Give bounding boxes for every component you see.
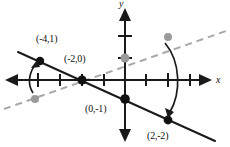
point-neg2-0: [77, 75, 86, 84]
label-neg4-1: (-4,1): [36, 33, 57, 44]
dashed-point-right: [164, 33, 172, 41]
dashed-point-y-intercept: [121, 54, 130, 63]
y-axis-label: y: [119, 0, 123, 9]
dashed-point-left: [31, 95, 39, 103]
point-0-neg1: [120, 94, 130, 104]
x-axis: [5, 73, 212, 87]
x-axis-left-arrowhead: [5, 74, 18, 86]
y-axis-bottom-arrowhead: [119, 129, 131, 142]
x-axis-label: x: [216, 74, 220, 85]
solid-line-path: [18, 52, 215, 141]
y-axis-top-arrowhead: [119, 8, 131, 21]
y-axis: [118, 8, 132, 142]
coordinate-plane-figure: (-4,1) (-2,0) (0,-1) (2,-2) x y: [0, 0, 230, 147]
solid-line: [18, 52, 215, 141]
label-0-neg1: (0,-1): [85, 103, 106, 114]
left-curved-arrow-path: [29, 64, 36, 93]
x-axis-right-arrowhead: [199, 74, 212, 86]
coordinate-plane-svg: [0, 0, 230, 147]
label-neg2-0: (-2,0): [64, 53, 85, 64]
label-2-neg2: (2,-2): [147, 130, 168, 141]
right-curved-arrow-path: [165, 43, 178, 112]
